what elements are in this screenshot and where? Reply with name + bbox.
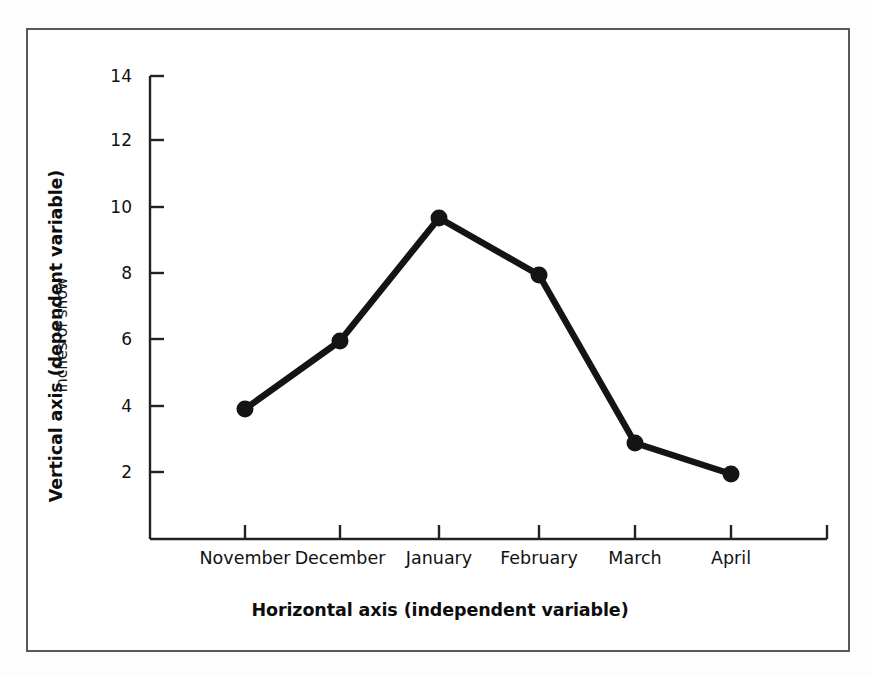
figure-frame: 2 4 6 8 10 12 14 November December Janua…: [26, 28, 850, 652]
y-axis: [150, 76, 164, 539]
data-point-markers: [237, 210, 740, 483]
line-chart-graphic: [28, 30, 852, 654]
data-point-february: [531, 267, 548, 284]
data-point-april: [723, 466, 740, 483]
plot-area: 2 4 6 8 10 12 14 November December Janua…: [28, 30, 852, 654]
y-tick-marks: [150, 140, 164, 472]
x-axis-title: Horizontal axis (independent variable): [28, 600, 852, 620]
x-axis: [150, 525, 827, 539]
data-point-november: [237, 401, 254, 418]
y-axis-unit-label: Inches of snow: [53, 205, 71, 465]
data-point-march: [627, 435, 644, 452]
x-tick-marks: [245, 525, 731, 539]
data-point-january: [431, 210, 448, 227]
data-point-december: [332, 333, 349, 350]
data-line-inches-of-snow: [245, 218, 731, 474]
